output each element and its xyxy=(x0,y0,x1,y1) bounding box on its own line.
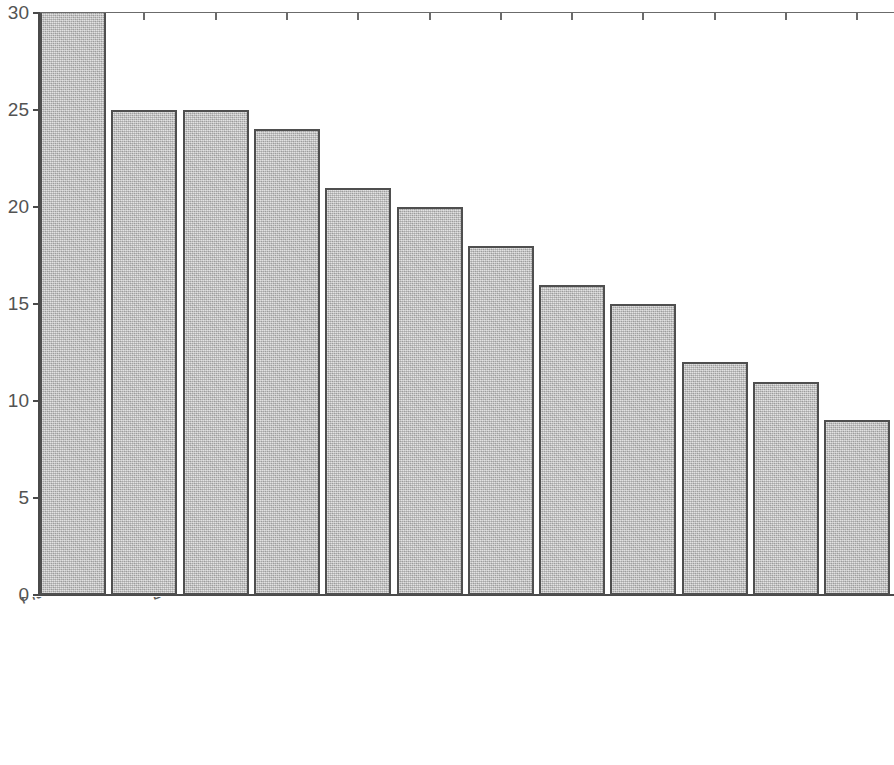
bar xyxy=(468,246,534,595)
x-axis-label: Flakes xyxy=(16,597,73,609)
y-axis-tick-label: 20 xyxy=(0,197,29,216)
bar xyxy=(40,13,106,595)
bar xyxy=(824,420,890,595)
x-axis-label: Scale pits xyxy=(422,597,502,601)
bar xyxy=(753,382,819,595)
y-axis-tick-label: 25 xyxy=(0,100,29,119)
plot-area xyxy=(39,13,894,595)
x-axis-label: Cold shut xyxy=(353,597,431,601)
bar xyxy=(183,110,249,595)
bar xyxy=(682,362,748,595)
bar xyxy=(610,304,676,595)
bar xyxy=(325,188,391,595)
y-axis-tick-label: 5 xyxy=(0,488,29,507)
y-axis-tick-label: 30 xyxy=(0,3,29,22)
bar xyxy=(254,129,320,595)
bar xyxy=(539,285,605,595)
x-axis-labels: FlakesUnfilled sectionDie shiftCracking … xyxy=(0,597,894,765)
bar-chart: 051015202530 FlakesUnfilled sectionDie s… xyxy=(0,0,894,765)
y-axis-tick-label: 10 xyxy=(0,391,29,410)
bar xyxy=(111,110,177,595)
x-axis-label: Die shift xyxy=(148,597,216,605)
y-axis-tick-label: 15 xyxy=(0,294,29,313)
bar xyxy=(397,207,463,595)
